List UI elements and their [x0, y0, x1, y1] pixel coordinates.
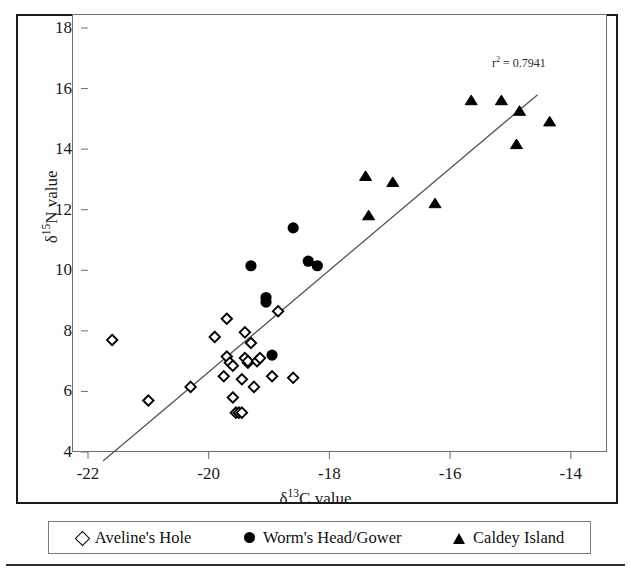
x-axis-title: δ13C value	[0, 487, 631, 509]
y-axis-title-prefix: δ	[42, 235, 61, 243]
y-tick-label: 16	[32, 80, 72, 97]
y-axis-title: δ15N value	[40, 132, 62, 282]
diamond-marker-icon	[75, 531, 88, 544]
legend-item[interactable]: Caldey Island	[453, 528, 564, 548]
r-squared-value: = 0.7941	[500, 56, 546, 70]
y-tick-label: 8	[32, 322, 72, 339]
legend-item[interactable]: Aveline's Hole	[75, 528, 192, 548]
legend-item[interactable]: Worm's Head/Gower	[243, 528, 402, 548]
legend-item-label: Caldey Island	[473, 528, 564, 548]
x-tick-label: -16	[425, 465, 475, 482]
x-tick-label: -20	[184, 465, 234, 482]
legend-item-label: Worm's Head/Gower	[263, 528, 402, 548]
y-tick-label: 6	[32, 382, 72, 399]
plot-area-box	[72, 14, 607, 452]
page-bottom-rule	[6, 564, 625, 566]
circle-marker-icon	[243, 531, 256, 544]
chart-figure: 4681012141618 -22-20-18-16-14 δ15N value…	[0, 0, 631, 572]
y-tick-label: 18	[32, 19, 72, 36]
x-tick-label: -14	[546, 465, 596, 482]
y-axis-title-exponent: 15	[40, 224, 53, 236]
x-axis-title-prefix: δ	[280, 489, 288, 508]
x-axis-title-suffix: C value	[299, 489, 351, 508]
y-tick-label: 4	[32, 443, 72, 460]
x-tick-label: -18	[304, 465, 354, 482]
chart-legend: Aveline's HoleWorm's Head/GowerCaldey Is…	[48, 521, 591, 554]
r-squared-annotation: r2 = 0.7941	[492, 55, 546, 71]
x-axis-title-exponent: 13	[288, 487, 300, 500]
y-axis-title-suffix: N value	[42, 170, 61, 223]
triangle-marker-icon	[453, 531, 466, 544]
x-tick-label: -22	[63, 465, 113, 482]
legend-item-label: Aveline's Hole	[95, 528, 192, 548]
